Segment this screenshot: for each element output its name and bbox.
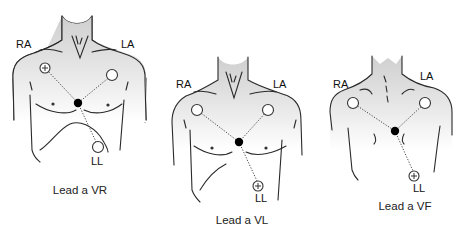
- caption-avf: Lead a VF: [378, 200, 431, 212]
- central-terminal-avf: [391, 127, 399, 135]
- label-ll-avl: LL: [255, 192, 267, 204]
- electrode-la-avf: [420, 98, 431, 109]
- central-terminal-avr: [74, 99, 82, 107]
- figure-avr: RA LA LL Lead a VR: [13, 16, 146, 196]
- electrode-ra-positive-avr: [40, 63, 50, 73]
- caption-avl: Lead a VL: [216, 214, 269, 226]
- label-ra-avl: RA: [176, 78, 192, 90]
- label-ll-avf: LL: [413, 182, 425, 194]
- label-la-avf: LA: [420, 70, 434, 82]
- central-terminal-avl: [235, 138, 243, 146]
- augmented-limb-leads-diagram: RA LA LL Lead a VR RA LA LL Lead: [0, 0, 473, 233]
- label-la-avl: LA: [273, 78, 287, 90]
- electrode-ra-avl: [192, 105, 203, 116]
- electrode-ll-positive-avl: [253, 181, 263, 191]
- electrode-ll-avr: [93, 142, 104, 153]
- electrode-la-avr: [107, 70, 118, 81]
- figure-avf: RA LA LL Lead a VF: [330, 56, 452, 212]
- electrode-la-avl: [263, 105, 274, 116]
- electrode-ra-avf: [348, 98, 359, 109]
- torso-fill-avl: [172, 57, 301, 150]
- electrode-ll-positive-avf: [409, 171, 419, 181]
- label-ll-avr: LL: [91, 155, 103, 167]
- label-la-avr: LA: [121, 38, 135, 50]
- label-ra-avr: RA: [16, 38, 32, 50]
- label-ra-avf: RA: [333, 78, 349, 90]
- caption-avr: Lead a VR: [53, 184, 107, 196]
- figure-avl: RA LA LL Lead a VL: [172, 57, 302, 226]
